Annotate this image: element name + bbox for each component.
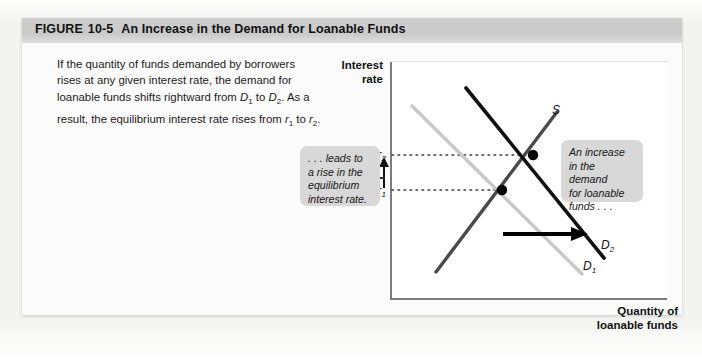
callout-left-line-3: equilibrium	[308, 179, 359, 191]
curve-label-supply: S	[552, 103, 560, 117]
equilibrium-point-e1	[497, 185, 507, 195]
callout-right-line-2: in the demand	[569, 160, 607, 186]
y-axis-title: Interest rate	[300, 58, 383, 86]
curve-label-demand-2: D2	[601, 238, 614, 254]
y-axis-title-line-2: rate	[362, 73, 383, 85]
caption-line-4: result, the equilibrium interest rate ri…	[57, 113, 320, 125]
callout-left-line-2: a rise in the	[308, 166, 363, 178]
equilibrium-point-e2	[528, 150, 538, 160]
callout-left-line-1: . . . leads to	[308, 152, 363, 164]
figure-number: 10-5	[88, 22, 113, 36]
caption-line-1: If the quantity of funds demanded by bor…	[57, 58, 295, 70]
callout-interest-rate-rise: . . . leads to a rise in the equilibrium…	[300, 146, 380, 206]
callout-demand-increase: An increase in the demand for loanable f…	[561, 140, 643, 202]
x-axis-title-line-2: loanable funds	[597, 319, 678, 331]
figure-label: FIGURE	[35, 22, 83, 36]
callout-right-line-3: for loanable	[569, 187, 624, 199]
curve-label-demand-1: D1	[583, 259, 596, 275]
x-axis-title: Quantity of loanable funds	[520, 304, 678, 332]
caption-line-3: loanable funds shifts rightward from D1 …	[57, 91, 310, 103]
caption-line-2: rises at any given interest rate, the de…	[57, 74, 292, 86]
callout-left-line-4: interest rate.	[308, 193, 367, 205]
y-axis-title-line-1: Interest	[341, 59, 383, 71]
supply-curve-s	[436, 112, 557, 272]
figure-title: FIGURE10-5An Increase in the Demand for …	[35, 22, 406, 36]
callout-right-line-1: An increase	[569, 146, 625, 158]
x-axis-title-line-1: Quantity of	[617, 305, 678, 317]
callout-right-line-4: funds . . .	[569, 200, 613, 212]
figure-title-text: An Increase in the Demand for Loanable F…	[121, 22, 405, 36]
